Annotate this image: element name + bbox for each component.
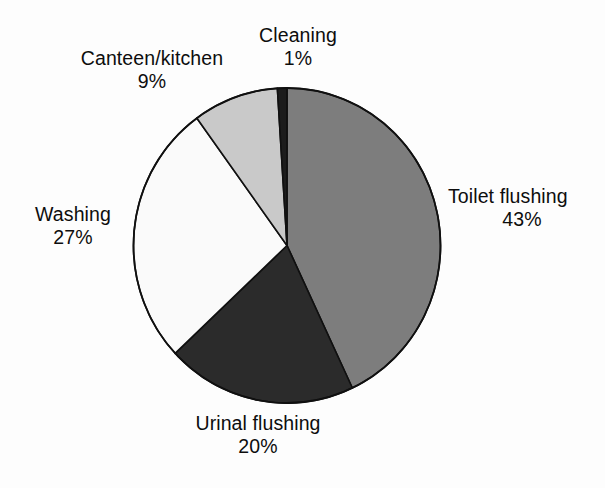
slice-label-washing-percent: 27% [8,226,138,249]
slice-label-canteen-kitchen-name: Canteen/kitchen [42,47,262,70]
slice-label-toilet-flushing-name: Toilet flushing [448,185,605,208]
slice-label-urinal-flushing-name: Urinal flushing [160,412,356,435]
slice-label-toilet-flushing: Toilet flushing 43% [448,185,605,231]
slice-label-urinal-flushing: Urinal flushing 20% [160,412,356,458]
slice-label-cleaning-name: Cleaning [218,24,378,47]
slice-label-canteen-kitchen-percent: 9% [42,70,262,93]
slice-label-canteen-kitchen: Canteen/kitchen 9% [42,47,262,93]
slice-label-washing-name: Washing [8,203,138,226]
slice-label-toilet-flushing-percent: 43% [448,208,596,231]
pie-chart-figure: Cleaning 1% Canteen/kitchen 9% Toilet fl… [0,0,605,488]
slice-label-washing: Washing 27% [8,203,138,249]
slice-label-urinal-flushing-percent: 20% [160,435,356,458]
